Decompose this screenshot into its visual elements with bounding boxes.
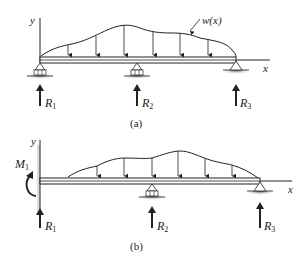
beam (40, 57, 236, 63)
distributed-load-curve-b (68, 151, 258, 178)
reaction-label-r1-b: R1 (44, 219, 56, 234)
x-axis-label: x (262, 62, 268, 74)
roller-support-2-b (138, 184, 166, 201)
reaction-label-r1: R1 (44, 96, 56, 111)
y-axis-label: y (29, 14, 35, 26)
load-label: w(x) (202, 14, 222, 27)
reaction-arrows (36, 84, 240, 106)
reaction-label-r3-b: R3 (263, 219, 275, 234)
x-axis-label-b: x (287, 183, 293, 195)
beam-diagrams: y x w(x) (0, 0, 308, 261)
distributed-load-curve (41, 25, 236, 57)
load-arrows (68, 25, 208, 55)
moment-arrow (27, 176, 36, 196)
roller-support-2 (123, 63, 151, 80)
caption-a: (a) (130, 117, 143, 130)
y-axis-label-b: y (30, 135, 36, 147)
reaction-label-r2: R2 (141, 96, 153, 111)
reaction-label-r3: R3 (239, 96, 251, 111)
load-leader-arrow (190, 19, 200, 31)
load-arrows-b (97, 151, 232, 176)
diagram-a: y x w(x) (26, 14, 270, 130)
moment-label: M1 (14, 157, 29, 172)
beam-b (40, 178, 260, 184)
caption-b: (b) (130, 240, 143, 253)
roller-support-1 (26, 63, 54, 80)
reaction-arrows-b (36, 202, 264, 228)
reaction-label-r2-b: R2 (156, 219, 168, 234)
diagram-b: y x M1 (14, 135, 293, 253)
